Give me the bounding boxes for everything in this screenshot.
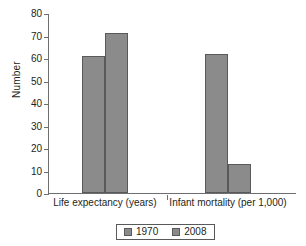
y-axis-title: Number: [11, 48, 22, 112]
y-axis-tick-mark: [44, 194, 48, 195]
y-axis-tick-label: 70: [31, 32, 42, 42]
bar-2008-0: [105, 33, 128, 193]
bar-chart: Number 01020304050607080 Life expectancy…: [0, 0, 306, 246]
y-axis-tick-mark: [44, 172, 48, 173]
y-axis-tick-mark: [44, 59, 48, 60]
y-axis-line: [48, 14, 49, 195]
chart-legend: 1970 2008: [116, 224, 215, 240]
y-axis-tick-mark: [44, 82, 48, 83]
bar-1970-1: [205, 54, 228, 194]
y-axis-tick-mark: [44, 37, 48, 38]
bar-2008-1: [228, 164, 251, 193]
y-axis-tick-label: 10: [31, 167, 42, 177]
y-axis-tick-mark: [44, 14, 48, 15]
x-axis-category-label: Infant mortality (per 1,000): [148, 197, 306, 209]
y-axis-tick-label: 80: [31, 9, 42, 19]
y-axis-tick-label: 20: [31, 144, 42, 154]
legend-swatch-icon: [124, 228, 132, 236]
y-axis-tick-mark: [44, 127, 48, 128]
y-axis-tick-mark: [44, 104, 48, 105]
y-axis-tick-label: 30: [31, 122, 42, 132]
plot-area: 01020304050607080: [48, 14, 296, 194]
legend-item-2008: 2008: [172, 227, 206, 237]
y-axis-tick-label: 50: [31, 77, 42, 87]
x-axis-line: [48, 193, 296, 194]
y-axis-tick-label: 40: [31, 99, 42, 109]
y-axis-tick-label: 60: [31, 54, 42, 64]
legend-label: 2008: [184, 227, 206, 237]
legend-item-1970: 1970: [124, 227, 158, 237]
y-axis-tick-mark: [44, 149, 48, 150]
legend-swatch-icon: [172, 228, 180, 236]
legend-label: 1970: [136, 227, 158, 237]
bar-1970-0: [82, 56, 105, 193]
